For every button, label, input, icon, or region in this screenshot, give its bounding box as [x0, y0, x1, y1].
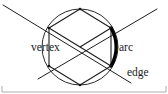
hexagon-vertex-dot — [110, 65, 113, 68]
hexagon-vertex-dot — [110, 27, 113, 30]
diagram-canvas: vertex arc edge — [0, 0, 168, 94]
geometry-figure: vertex arc edge — [0, 0, 168, 94]
radius-upper-right — [80, 28, 111, 47]
radius-lower-right — [80, 47, 111, 66]
hexagon-vertex-dot — [79, 84, 82, 87]
label-edge: edge — [127, 66, 149, 79]
highlighted-arc — [111, 28, 116, 66]
label-arc: arc — [119, 41, 133, 53]
label-vertex: vertex — [31, 41, 60, 53]
hexagon-vertex-dot — [48, 27, 51, 30]
hexagon-vertex-dot — [79, 8, 82, 11]
hexagon-vertex-dot — [48, 65, 51, 68]
